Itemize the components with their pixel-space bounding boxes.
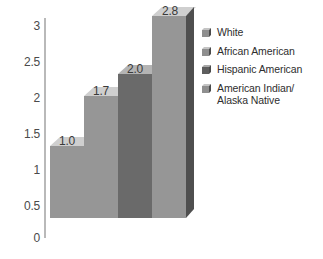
bar-african-american[interactable] [84,96,118,218]
legend-swatch-cube-icon [202,84,211,93]
y-tick-3: 3 [6,21,40,31]
bar-label-hispanic-american: 2.0 [115,63,155,75]
legend-item-white[interactable]: White [202,26,323,38]
bar-label-american-indian-alaska-native: 2.8 [150,5,190,17]
bar-front-face [152,16,186,218]
bar-white[interactable] [50,146,84,218]
y-tick-0-5: 0.5 [6,201,40,211]
bar-label-white: 1.0 [47,135,87,147]
y-tick-1: 1 [6,165,40,175]
y-axis-labels: 3 2.5 2 1.5 1 0.5 0 [0,0,40,259]
legend-swatch-cube-icon [202,65,211,74]
plot-area: 1.0 1.7 2.0 2.8 [46,10,206,240]
bar-hispanic-american[interactable] [118,74,152,218]
legend-swatch-cube-icon [202,28,211,37]
bar-american-indian-alaska-native[interactable] [152,16,186,218]
bar-front-face [84,96,118,218]
bar-chart: 3 2.5 2 1.5 1 0.5 0 1.0 1.7 2.0 [0,0,323,259]
bar-side-face [186,7,194,218]
y-tick-1-5: 1.5 [6,129,40,139]
legend: White African American Hispanic American… [202,26,323,112]
legend-label-african-american: African American [217,45,295,57]
legend-item-american-indian-alaska-native[interactable]: American Indian/ Alaska Native [202,82,323,106]
legend-label-hispanic-american: Hispanic American [217,63,302,75]
y-tick-2-5: 2.5 [6,57,40,67]
legend-label-white: White [217,26,243,38]
bar-front-face [118,74,152,218]
legend-label-american-indian-alaska-native: American Indian/ Alaska Native [217,82,294,106]
y-tick-0: 0 [6,233,40,243]
bar-front-face [50,146,84,218]
y-tick-2: 2 [6,93,40,103]
legend-swatch-cube-icon [202,47,211,56]
bar-label-african-american: 1.7 [81,85,121,97]
legend-item-african-american[interactable]: African American [202,45,323,57]
legend-item-hispanic-american[interactable]: Hispanic American [202,63,323,75]
